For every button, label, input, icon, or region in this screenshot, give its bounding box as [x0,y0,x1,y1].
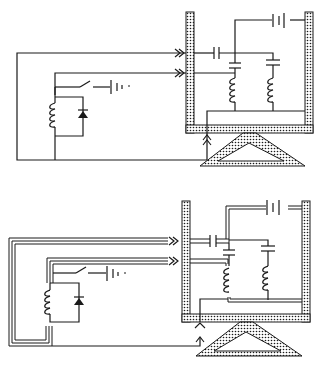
diagram-stage: Two schematic diagrams of a resonant tun… [0,0,328,369]
lc-tank-2 [261,246,275,300]
switch-icon [55,81,110,87]
coil-icon [263,266,268,290]
internal-shielded-lines [190,206,302,302]
top-diagram [17,12,313,166]
coil-icon [224,268,229,292]
diode-icon [74,297,84,305]
coil-icon [45,290,50,314]
coil-icon [50,103,55,127]
bottom-diagram [9,200,310,356]
coil-icon [230,78,235,102]
triangular-stand [200,133,305,166]
battery-icon [111,80,130,94]
enclosure-battery-icon [267,200,279,215]
triangular-stand [196,322,302,356]
shielded-cable-outer [9,238,168,346]
enclosure-battery-icon [273,13,305,28]
shielded-enclosure [182,201,310,322]
diode-icon [78,110,88,118]
lc-tank-1 [194,63,241,111]
switch-icon [53,267,106,273]
lc-tank-2 [266,60,280,111]
battery-icon [107,266,126,281]
coil-icon [268,78,273,102]
capacitor-icon [214,47,219,59]
double-chevron-icon [169,237,178,245]
capacitor-icon [210,235,216,247]
double-chevron-icon [169,257,178,265]
lc-tank-1 [223,243,235,292]
up-chevron-icon [195,323,205,328]
